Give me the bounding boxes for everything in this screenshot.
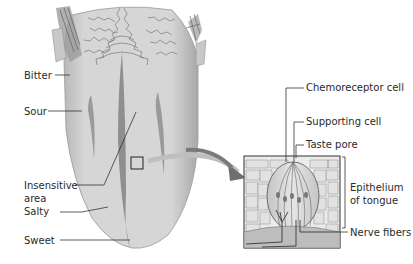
label-insensitive-line2: area bbox=[24, 193, 46, 204]
label-sweet: Sweet bbox=[24, 235, 55, 246]
label-bitter: Bitter bbox=[24, 70, 52, 81]
label-supporting-cell: Supporting cell bbox=[306, 116, 381, 127]
diagram-artwork bbox=[0, 0, 413, 264]
label-epithelium-line1: Epithelium bbox=[350, 182, 404, 193]
label-taste-pore: Taste pore bbox=[306, 139, 358, 150]
label-salty: Salty bbox=[24, 206, 49, 217]
label-epithelium-line2: of tongue bbox=[350, 195, 398, 206]
label-insensitive-line1: Insensitive bbox=[24, 180, 78, 191]
label-nerve-fibers: Nerve fibers bbox=[350, 227, 411, 238]
label-chemoreceptor-cell: Chemoreceptor cell bbox=[306, 82, 404, 93]
taste-bud-inset bbox=[244, 156, 340, 248]
label-sour: Sour bbox=[24, 106, 47, 117]
